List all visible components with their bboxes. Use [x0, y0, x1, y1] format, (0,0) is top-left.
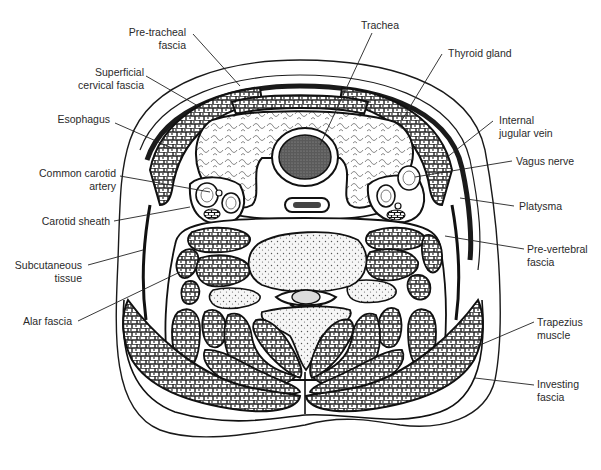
label-vagus-nerve: Vagus nerve [516, 155, 596, 168]
label-subcutaneous-tissue: Subcutaneous tissue [6, 259, 82, 284]
label-investing-fascia: Investing fascia [537, 378, 601, 403]
left-vagus-nerve [216, 190, 222, 196]
label-common-carotid-artery: Common carotid artery [20, 167, 116, 192]
label-esophagus: Esophagus [30, 113, 110, 126]
vertebral-body [249, 232, 367, 292]
trachea-lumen [279, 135, 331, 179]
label-trapezius-muscle: Trapezius muscle [537, 316, 601, 341]
label-internal-jugular-vein: Internal jugular vein [499, 114, 589, 139]
right-vagus-nerve [395, 203, 401, 209]
label-alar-fascia: Alar fascia [6, 315, 72, 328]
label-platysma: Platysma [519, 200, 589, 213]
label-pre-tracheal-fascia: Pre-tracheal fascia [108, 26, 186, 51]
label-carotid-sheath: Carotid sheath [20, 215, 110, 228]
label-superficial-cervical-fascia: Superficial cervical fascia [58, 66, 144, 91]
label-trachea: Trachea [350, 19, 410, 32]
label-thyroid-gland: Thyroid gland [448, 47, 538, 60]
label-pre-vertebral-fascia: Pre-vertebral fascia [527, 243, 601, 268]
neck-cross-section-diagram: Pre-tracheal fascia Superficial cervical… [0, 0, 601, 470]
